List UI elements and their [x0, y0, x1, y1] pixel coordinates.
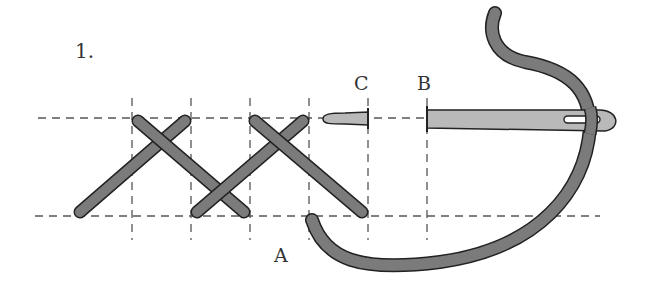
needle-tip [323, 112, 368, 125]
stitch-diagram: 1. C B A [0, 0, 664, 305]
label-c: C [354, 72, 369, 94]
cross-stitches [80, 121, 362, 212]
label-a: A [273, 244, 288, 266]
needle [323, 106, 616, 134]
step-number: 1. [75, 39, 94, 63]
working-thread [312, 13, 590, 265]
label-b: B [417, 72, 431, 94]
